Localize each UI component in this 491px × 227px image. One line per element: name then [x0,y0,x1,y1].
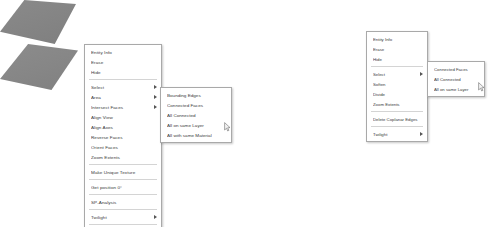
menu-right-item-soften[interactable]: Soften [367,79,427,89]
submenu-left-item-all-on-same-layer[interactable]: All on same Layer [161,120,231,130]
submenu-arrow-icon [420,72,423,76]
menu-left-item-reverse-faces[interactable]: Reverse Faces [85,132,161,142]
face-quad-left[interactable] [0,0,76,44]
menu-separator [89,79,157,80]
submenu-right-item-all-connected[interactable]: All Connected [428,74,484,84]
menu-right-item-hide[interactable]: Hide [367,54,427,64]
menu-left-item-align-axes[interactable]: Align Axes [85,122,161,132]
menu-right-item-delete-coplanar-edges[interactable]: Delete Coplanar Edges [367,114,427,124]
submenu-arrow-icon [420,132,423,136]
menu-item-label: All on same Layer [434,87,468,92]
submenu-left-item-connected-faces[interactable]: Connected Faces [161,100,231,110]
menu-right-item-select[interactable]: Select [367,69,427,79]
context-menu-left[interactable]: Entity InfoEraseHideSelectAreaIntersect … [84,44,162,227]
menu-item-label: Align View [91,115,113,120]
menu-item-label: Intersect Faces [91,105,123,110]
select-submenu-right[interactable]: Connected FacesAll ConnectedAll on same … [427,61,485,97]
menu-left-item-erase[interactable]: Erase [85,57,161,67]
menu-item-label: Select [373,72,385,77]
menu-item-label: SP-Analysis [91,200,116,205]
menu-item-label: Zoom Extents [91,155,120,160]
menu-separator [371,111,423,112]
menu-separator [89,194,157,195]
menu-left-item-sp-analysis[interactable]: SP-Analysis [85,197,161,207]
menu-item-label: Select [91,85,104,90]
menu-right-item-entity-info[interactable]: Entity Info [367,34,427,44]
menu-separator [371,126,423,127]
menu-item-label: Soften [373,82,385,87]
menu-item-label: Erase [373,47,384,52]
menu-item-label: Orient Faces [91,145,118,150]
menu-separator [371,66,423,67]
submenu-arrow-icon [154,215,157,219]
menu-item-label: Reverse Faces [91,135,123,140]
menu-left-item-zoom-extents[interactable]: Zoom Extents [85,152,161,162]
screenshot-root: Entity InfoEraseHideSelectAreaIntersect … [0,0,491,227]
menu-item-label: All on same Layer [167,123,204,128]
menu-item-label: Connected Faces [434,67,468,72]
menu-item-label: Entity Info [91,50,112,55]
menu-item-label: Get position 0° [91,185,122,190]
submenu-arrow-icon [154,85,157,89]
menu-left-item-twilight[interactable]: Twilight [85,212,161,222]
menu-right-item-erase[interactable]: Erase [367,44,427,54]
menu-item-label: Twilight [91,215,107,220]
menu-item-label: All Connected [167,113,196,118]
menu-separator [89,209,157,210]
menu-left-item-entity-info[interactable]: Entity Info [85,47,161,57]
menu-separator [89,164,157,165]
menu-left-item-orient-faces[interactable]: Orient Faces [85,142,161,152]
submenu-arrow-icon [154,95,157,99]
menu-item-label: Make Unique Texture [91,170,135,175]
menu-item-label: All Connected [434,77,461,82]
menu-item-label: Hide [91,70,101,75]
menu-item-label: Zoom Extents [373,102,400,107]
menu-item-label: All with same Material [167,133,212,138]
menu-separator [89,179,157,180]
menu-separator [89,224,157,225]
menu-left-item-hide[interactable]: Hide [85,67,161,77]
menu-left-item-select[interactable]: Select [85,82,161,92]
menu-right-item-twilight[interactable]: Twilight [367,129,427,139]
submenu-left-item-all-connected[interactable]: All Connected [161,110,231,120]
menu-item-label: Entity Info [373,37,392,42]
select-submenu-left[interactable]: Bounding EdgesConnected FacesAll Connect… [160,87,232,143]
submenu-left-item-all-with-same-material[interactable]: All with same Material [161,130,231,140]
submenu-left-item-bounding-edges[interactable]: Bounding Edges [161,90,231,100]
menu-left-item-get-position-0[interactable]: Get position 0° [85,182,161,192]
menu-item-label: Divide [373,92,385,97]
menu-left-item-area[interactable]: Area [85,92,161,102]
menu-right-item-divide[interactable]: Divide [367,89,427,99]
menu-item-label: Area [91,95,101,100]
submenu-arrow-icon [154,105,157,109]
menu-item-label: Delete Coplanar Edges [373,117,417,122]
face-quad-right[interactable] [0,44,78,90]
menu-item-label: Erase [91,60,103,65]
menu-left-item-intersect-faces[interactable]: Intersect Faces [85,102,161,112]
menu-item-label: Connected Faces [167,103,203,108]
submenu-right-item-all-on-same-layer[interactable]: All on same Layer [428,84,484,94]
menu-item-label: Bounding Edges [167,93,201,98]
menu-item-label: Hide [373,57,382,62]
menu-left-item-align-view[interactable]: Align View [85,112,161,122]
menu-right-item-zoom-extents[interactable]: Zoom Extents [367,99,427,109]
context-menu-right[interactable]: Entity InfoEraseHideSelectSoftenDivideZo… [366,31,428,142]
submenu-right-item-connected-faces[interactable]: Connected Faces [428,64,484,74]
menu-item-label: Twilight [373,132,387,137]
menu-left-item-make-unique-texture[interactable]: Make Unique Texture [85,167,161,177]
menu-item-label: Align Axes [91,125,113,130]
